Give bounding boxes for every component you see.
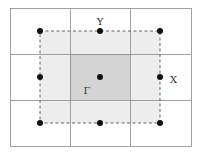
point-Gamma	[97, 74, 103, 80]
point-edge-bottom	[97, 120, 103, 126]
point-X	[157, 74, 163, 80]
point-Y	[97, 28, 103, 34]
point-corner-bottom-right	[157, 120, 163, 126]
point-edge-left	[37, 74, 43, 80]
point-corner-top-right	[157, 28, 163, 34]
point-corner-top-left	[37, 28, 43, 34]
label-Y: Y	[96, 16, 104, 27]
brillouin-zone-diagram: Y X Γ	[0, 0, 202, 152]
label-X: X	[170, 74, 178, 85]
label-Gamma: Γ	[84, 85, 91, 96]
point-corner-bottom-left	[37, 120, 43, 126]
